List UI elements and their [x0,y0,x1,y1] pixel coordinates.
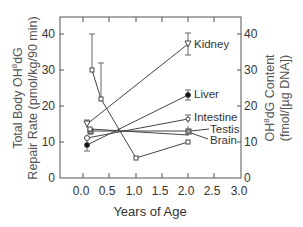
chart: 0 10 20 30 40 0 10 20 30 40 0.0 0.5 1.0 … [0,0,303,227]
error-bars [84,33,191,151]
svg-text:(fmol/[µg DNA]): (fmol/[µg DNA]) [278,55,292,141]
svg-text:40: 40 [244,27,258,41]
x-axis-ticks [83,173,214,178]
svg-text:2.5: 2.5 [204,184,221,198]
svg-text:Total Body OH8dG: Total Body OH8dG [10,47,25,149]
kidney-label: Kidney [194,38,229,50]
right-y-tick-labels: 0 10 20 30 40 [244,27,258,185]
svg-text:10: 10 [42,135,56,149]
svg-text:10: 10 [244,135,258,149]
repair-rate-point [99,97,103,101]
repair-rate-line [92,70,188,158]
left-y-axis-ticks [60,34,64,142]
testis-point [186,129,191,134]
svg-text:0.5: 0.5 [99,184,116,198]
repair-rate-point [90,68,94,72]
x-tick-labels: 0.0 0.5 1.0 1.5 2.0 2.5 3.0 [73,184,248,198]
left-y-axis-title: Total Body OH8dG Repair Rate (pmol/kg/90… [10,16,40,179]
brain-label: Brain [210,134,237,146]
intestine-point [186,117,190,121]
right-y-axis-title: OH8dG Content (fmol/[µg DNA]) [262,54,292,142]
liver-point [186,93,191,98]
kidney-point [84,121,90,127]
svg-text:20: 20 [42,99,56,113]
intestine-point [85,136,90,141]
svg-text:OH8dG Content: OH8dG Content [262,54,277,142]
svg-text:2.0: 2.0 [178,184,195,198]
svg-text:0.0: 0.0 [73,184,90,198]
svg-text:0: 0 [244,171,251,185]
svg-text:30: 30 [244,63,258,77]
brain-line [90,129,188,135]
brain-point [88,127,92,131]
svg-text:1.0: 1.0 [126,184,143,198]
repair-rate-point [186,140,190,144]
svg-text:0: 0 [48,171,55,185]
liver-line [87,95,188,145]
svg-text:30: 30 [42,63,56,77]
intestine-label: Intestine [194,111,237,123]
liver-label: Liver [194,88,219,100]
svg-text:3.0: 3.0 [231,184,248,198]
svg-text:Repair Rate (pmol/kg/90 min): Repair Rate (pmol/kg/90 min) [26,16,40,179]
svg-text:1.5: 1.5 [152,184,169,198]
svg-text:20: 20 [244,99,258,113]
repair-rate-point [134,156,138,160]
series-labels: Kidney Liver Intestine Testis Brain [191,38,240,146]
left-y-tick-labels: 0 10 20 30 40 [42,27,56,185]
top-ticks [83,17,214,22]
svg-text:40: 40 [42,27,56,41]
x-axis-title: Years of Age [113,204,186,219]
liver-point [85,143,90,148]
intestine-line [87,119,188,138]
markers [84,41,191,160]
kidney-line [87,44,188,124]
